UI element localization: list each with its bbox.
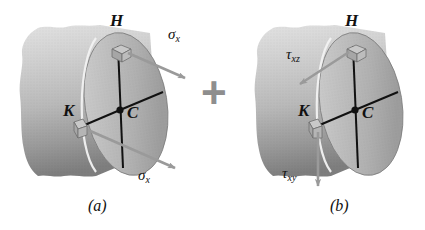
center-point-b [351, 106, 358, 113]
tau-subscript-xy: xy [287, 172, 296, 183]
label-point-k-a: K [63, 102, 74, 119]
label-sigma-x-lower: σx [138, 168, 150, 185]
stress-element-k-a [74, 119, 87, 138]
label-tau-xy: τxy [282, 166, 297, 183]
stress-element-k-b [309, 119, 322, 138]
center-point-a [116, 106, 123, 113]
sigma-subscript-lower: x [145, 174, 150, 185]
label-tau-xz: τxz [286, 47, 300, 64]
label-center-c-a: C [127, 104, 138, 121]
label-point-h-a: H [110, 12, 123, 29]
panel-a-shaft [20, 25, 185, 182]
label-sigma-x-upper: σx [168, 27, 180, 44]
caption-panel-b: (b) [330, 198, 349, 214]
caption-panel-a: (a) [88, 198, 107, 214]
panel-b-shaft [255, 25, 413, 186]
sigma-subscript-upper: x [175, 33, 180, 44]
tau-subscript-xz: xz [291, 53, 300, 64]
figure-root: H K C σx σx (a) + H K C τxz τxy (b) [0, 0, 425, 230]
label-center-c-b: C [362, 104, 373, 121]
plus-operator: + [201, 71, 227, 115]
label-point-k-b: K [298, 102, 309, 119]
label-point-h-b: H [345, 12, 358, 29]
